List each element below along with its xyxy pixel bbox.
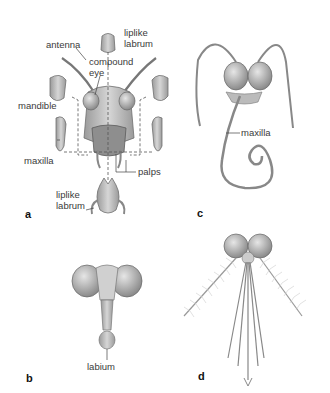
compound-eye-right: [119, 92, 135, 110]
butterfly-head: [196, 44, 293, 188]
panel-label-c: c: [197, 207, 203, 219]
labellum: [99, 331, 115, 349]
label-labrum-bot-2: labrum: [56, 201, 85, 211]
label-antenna: antenna: [46, 40, 80, 50]
label-maxilla-a: maxilla: [24, 156, 54, 166]
label-compound-2: eye: [89, 68, 104, 78]
label-labrum-bot-1: liplike: [56, 190, 80, 200]
maxilla-right: [152, 117, 162, 151]
label-labium: labium: [87, 362, 115, 372]
mandible-left: [50, 75, 66, 100]
label-maxilla-c: maxilla: [241, 128, 271, 138]
label-mandible: mandible: [18, 101, 57, 111]
label-labrum-top-1: liplike: [124, 28, 148, 38]
panel-label-a: a: [25, 208, 31, 220]
compound-eye-left: [83, 92, 99, 110]
labrum-top: [101, 34, 115, 53]
mandible-right: [152, 75, 168, 100]
labium-lower: [97, 178, 119, 213]
insect-mouthparts-illustration: [0, 0, 330, 393]
label-labrum-top-2: labrum: [124, 39, 153, 49]
maxilla-left: [56, 117, 66, 151]
label-compound-1: compound: [89, 57, 133, 67]
proboscis: [101, 300, 113, 330]
panel-label-b: b: [26, 372, 33, 384]
stylets: [228, 262, 264, 380]
fly-head: [72, 265, 142, 360]
label-palps: palps: [138, 167, 161, 177]
panel-label-d: d: [198, 370, 205, 382]
mosquito-head: [184, 234, 306, 386]
proboscis-coiled: [221, 96, 272, 188]
